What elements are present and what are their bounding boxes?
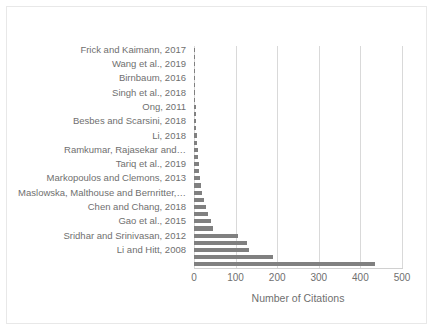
bar-row	[194, 196, 402, 203]
bar	[194, 155, 198, 159]
bar	[194, 176, 200, 180]
bar-row	[194, 53, 402, 60]
bar	[194, 212, 208, 216]
y-axis-label: Tariq et al., 2019	[116, 159, 186, 169]
bar-row	[194, 182, 402, 189]
bar	[194, 48, 195, 52]
y-axis-category-labels: Frick and Kaimann, 2017Wang et al., 2019…	[0, 46, 190, 268]
bar	[194, 98, 195, 102]
bar	[194, 141, 197, 145]
bar-row	[194, 46, 402, 53]
bar-row	[194, 89, 402, 96]
bar-row	[194, 153, 402, 160]
bar-row	[194, 118, 402, 125]
bar	[194, 90, 195, 94]
bar	[194, 241, 247, 245]
bar-row	[194, 125, 402, 132]
bar	[194, 83, 195, 87]
bar	[194, 205, 206, 209]
bar-row	[194, 246, 402, 253]
bar	[194, 119, 196, 123]
x-axis-tick-label: 500	[394, 272, 411, 283]
bar-row	[194, 110, 402, 117]
bar-row	[194, 146, 402, 153]
bar	[194, 234, 238, 238]
y-axis-label: Sridhar and Srinivasan, 2012	[63, 231, 186, 241]
bar	[194, 76, 195, 80]
y-axis-label: Ramkumar, Rajasekar and…	[64, 145, 186, 155]
y-axis-label: Li, 2018	[152, 131, 186, 141]
x-axis-tick-label: 400	[352, 272, 369, 283]
bar-row	[194, 203, 402, 210]
bar-row	[194, 168, 402, 175]
x-axis-line	[194, 268, 403, 269]
bar-row	[194, 189, 402, 196]
bar	[194, 55, 195, 59]
bar-row	[194, 161, 402, 168]
x-axis-tick-label: 200	[269, 272, 286, 283]
y-axis-label: Markopoulos and Clemons, 2013	[47, 173, 186, 183]
y-axis-label: Gao et al., 2015	[118, 216, 186, 226]
x-axis-title: Number of Citations	[194, 292, 402, 304]
bar	[194, 191, 202, 195]
y-axis-label: Besbes and Scarsini, 2018	[73, 116, 186, 126]
bar-row	[194, 239, 402, 246]
bar-row	[194, 211, 402, 218]
y-axis-label: Singh et al., 2018	[112, 88, 186, 98]
bar-series	[194, 46, 402, 268]
y-axis-label: Li and Hitt, 2008	[117, 245, 186, 255]
y-axis-label: Wang et al., 2019	[112, 59, 186, 69]
y-axis-label: Frick and Kaimann, 2017	[80, 45, 186, 55]
bar-row	[194, 139, 402, 146]
x-axis-tick-label: 0	[191, 272, 197, 283]
x-axis-tick-label: 300	[310, 272, 327, 283]
bar	[194, 105, 196, 109]
citations-bar-chart: Frick and Kaimann, 2017Wang et al., 2019…	[0, 0, 434, 331]
plot-area	[194, 46, 402, 268]
bar-row	[194, 261, 402, 268]
y-axis-label: Maslowska, Malthouse and Bernritter,…	[18, 188, 186, 198]
y-axis-label: Birnbaum, 2016	[119, 73, 186, 83]
bar	[194, 183, 201, 187]
bar-row	[194, 96, 402, 103]
bar	[194, 255, 273, 259]
bar	[194, 112, 196, 116]
bar	[194, 262, 375, 266]
bar-row	[194, 82, 402, 89]
bar	[194, 198, 204, 202]
bar-row	[194, 132, 402, 139]
bar-row	[194, 103, 402, 110]
bar-row	[194, 60, 402, 67]
bar-row	[194, 254, 402, 261]
bar	[194, 62, 195, 66]
bar	[194, 226, 213, 230]
y-axis-label: Ong, 2011	[142, 102, 186, 112]
bar	[194, 162, 199, 166]
bar	[194, 169, 199, 173]
bar-row	[194, 75, 402, 82]
bar-row	[194, 175, 402, 182]
bar	[194, 219, 211, 223]
bar	[194, 126, 196, 130]
gridline-500	[402, 46, 403, 268]
x-axis-tick-labels: 0100200300400500	[194, 272, 402, 288]
bar	[194, 148, 198, 152]
bar	[194, 69, 195, 73]
y-axis-label: Chen and Chang, 2018	[88, 202, 186, 212]
bar-row	[194, 218, 402, 225]
bar-row	[194, 232, 402, 239]
bar	[194, 133, 197, 137]
bar-row	[194, 225, 402, 232]
x-axis-tick-label: 100	[227, 272, 244, 283]
bar-row	[194, 67, 402, 74]
bar	[194, 248, 249, 252]
